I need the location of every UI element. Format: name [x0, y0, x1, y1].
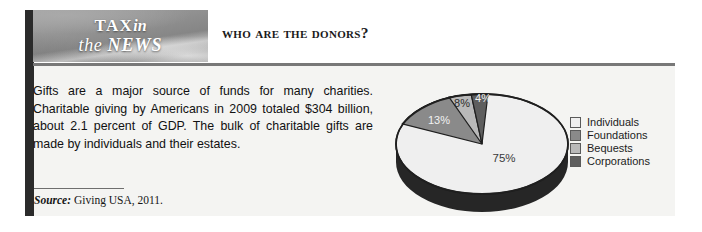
- source-label: Source:: [34, 194, 71, 206]
- source-value: Giving USA, 2011.: [71, 194, 163, 206]
- donors-pie-chart: 75% 13% 8% 4%: [392, 66, 572, 206]
- body-paragraph: Gifts are a major source of funds for ma…: [33, 83, 373, 153]
- legend-label-corporations: Corporations: [587, 155, 650, 168]
- legend-label-foundations: Foundations: [587, 129, 648, 142]
- pie-label-bequests: 8%: [454, 97, 470, 109]
- legend-item-individuals: Individuals: [570, 116, 674, 129]
- legend-swatch-corporations: [570, 156, 581, 167]
- page-title: Who Are the Donors?: [222, 24, 369, 42]
- tax-in-the-news-logo: TAXin the NEWS: [33, 10, 208, 62]
- legend-swatch-foundations: [570, 130, 581, 141]
- tax-in-the-news-figure: TAXin the NEWS Who Are the Donors? Gifts…: [0, 0, 702, 232]
- pie-label-foundations: 13%: [428, 114, 450, 126]
- logo-in-word: in: [133, 17, 146, 34]
- legend-item-bequests: Bequests: [570, 142, 674, 155]
- pie-chart-svg: 75% 13% 8% 4%: [392, 66, 572, 206]
- pie-label-individuals: 75%: [492, 152, 515, 164]
- logo-news-word: NEWS: [107, 35, 162, 55]
- legend-label-bequests: Bequests: [587, 142, 633, 155]
- legend-swatch-individuals: [570, 117, 581, 128]
- logo-line-one: TAXin: [94, 17, 146, 35]
- logo-the-word: the: [79, 35, 108, 55]
- legend-label-individuals: Individuals: [587, 116, 639, 129]
- legend-item-foundations: Foundations: [570, 129, 674, 142]
- logo-text: TAXin the NEWS: [33, 10, 208, 62]
- legend-item-corporations: Corporations: [570, 155, 674, 168]
- logo-line-two: the NEWS: [79, 36, 163, 55]
- source-citation: Source: Giving USA, 2011.: [34, 194, 163, 206]
- legend-swatch-bequests: [570, 143, 581, 154]
- source-divider: [34, 188, 124, 189]
- pie-legend: Individuals Foundations Bequests Corpora…: [570, 116, 674, 168]
- logo-tax-word: TAX: [94, 16, 133, 35]
- pie-label-corporations: 4%: [475, 92, 491, 104]
